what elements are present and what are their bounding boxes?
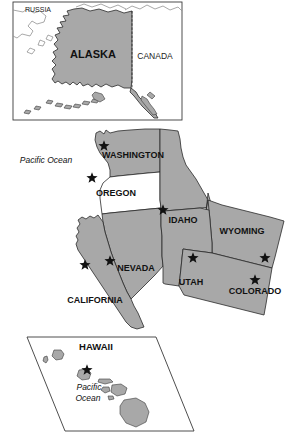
label-california: CALIFORNIA (67, 295, 123, 305)
label-oregon: OREGON (96, 188, 136, 198)
pacific-ocean-label-hawaii-line1: Pacific (76, 382, 102, 392)
pacific-ocean-label-hawaii-line2: Ocean (75, 393, 100, 403)
island-kahoolawe (108, 396, 114, 400)
pacific-ocean-label-main: Pacific Ocean (20, 155, 73, 165)
main-map-states: Pacific Ocean WASHINGTON OREGON IDAHO WY… (20, 129, 284, 329)
reference-map-figure: RUSSIA ALASKA CANADA (0, 0, 304, 434)
alaska-label: ALASKA (70, 48, 116, 60)
alaska-inset: RUSSIA ALASKA CANADA (13, 2, 182, 120)
hawaii-inset: HAWAII Pacific Ocean (27, 337, 194, 431)
label-nevada: NEVADA (117, 263, 155, 273)
label-idaho: IDAHO (169, 215, 198, 225)
label-washington: WASHINGTON (102, 150, 164, 160)
map-canvas: RUSSIA ALASKA CANADA (0, 0, 304, 434)
russia-label: RUSSIA (25, 6, 51, 13)
label-utah: UTAH (179, 277, 203, 287)
canada-label: CANADA (137, 51, 173, 61)
label-wyoming: WYOMING (220, 226, 265, 236)
label-colorado: COLORADO (229, 286, 282, 296)
state-idaho (160, 129, 212, 211)
star-marker-oregon (86, 172, 97, 183)
label-hawaii: HAWAII (79, 341, 113, 352)
